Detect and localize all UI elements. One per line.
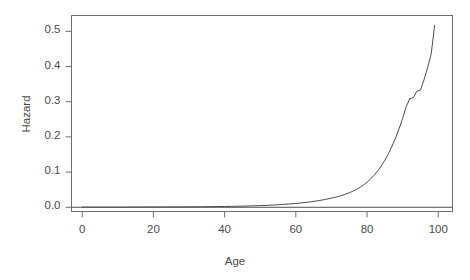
x-tick-label: 80 xyxy=(337,223,397,235)
y-tick-label: 0.1 xyxy=(0,164,61,176)
y-axis-ticks xyxy=(66,31,72,207)
x-axis-title: Age xyxy=(0,255,470,267)
plot-canvas xyxy=(0,0,470,280)
x-axis-ticks xyxy=(82,212,438,218)
y-tick-label: 0.5 xyxy=(0,23,61,35)
y-axis-title: Hazard xyxy=(20,95,32,132)
x-tick-label: 40 xyxy=(195,223,255,235)
x-tick-label: 0 xyxy=(52,223,112,235)
x-tick-label: 20 xyxy=(123,223,183,235)
y-tick-label: 0.0 xyxy=(0,199,61,211)
hazard-chart-figure: 020406080100 0.00.10.20.30.40.5 Age Haza… xyxy=(0,0,470,280)
hazard-curve xyxy=(82,25,435,207)
x-tick-label: 60 xyxy=(266,223,326,235)
y-tick-label: 0.4 xyxy=(0,59,61,71)
plot-box-border xyxy=(72,16,453,212)
x-tick-label: 100 xyxy=(408,223,468,235)
